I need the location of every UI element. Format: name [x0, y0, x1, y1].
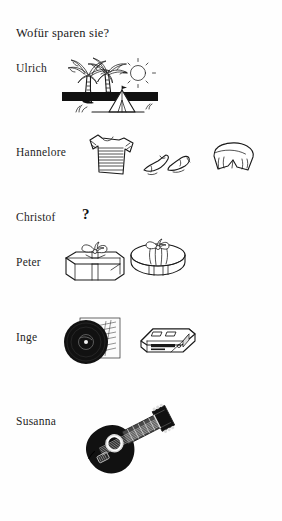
row-label-ulrich: Ulrich	[16, 62, 47, 74]
row-label-inge: Inge	[16, 331, 37, 343]
unknown-answer-marker: ?	[82, 206, 90, 223]
row-label-christof: Christof	[16, 211, 56, 223]
row-label-susanna: Susanna	[16, 415, 56, 427]
vinyl-record-icon	[62, 316, 124, 366]
square-gift-box-icon	[62, 240, 128, 284]
round-gift-box-icon	[127, 240, 189, 284]
cd-player-icon	[137, 322, 199, 358]
t-shirt-icon	[86, 132, 138, 180]
shorts-icon	[206, 140, 260, 182]
acoustic-guitar-icon	[66, 396, 178, 476]
row-label-hannelore: Hannelore	[16, 146, 66, 158]
shoes-icon	[142, 148, 200, 180]
palm-tree-beach-tent-icon	[62, 54, 158, 114]
page-title: Wofür sparen sie?	[16, 26, 109, 41]
worksheet-page: Wofür sparen sie? Ulrich	[0, 0, 282, 521]
row-label-peter: Peter	[16, 256, 41, 268]
